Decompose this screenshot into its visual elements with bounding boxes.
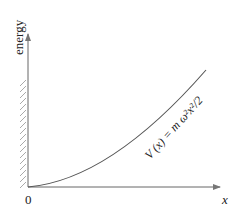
wall-hatching [20, 80, 26, 188]
potential-energy-diagram: energy x 0 V (x) = m ω²x²/2 [0, 0, 244, 216]
x-axis-label: x [221, 192, 228, 207]
origin-label: 0 [25, 192, 32, 207]
y-axis-label: energy [11, 19, 26, 55]
